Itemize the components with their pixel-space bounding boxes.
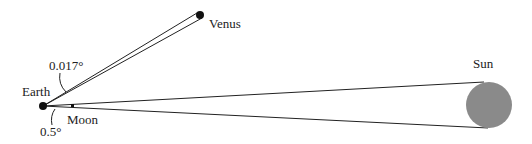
venus-angle-leader <box>60 73 66 92</box>
moon-angle-label: 0.5° <box>40 124 61 139</box>
earth-label: Earth <box>22 84 51 99</box>
sun-label: Sun <box>473 56 494 71</box>
venus-label: Venus <box>209 16 241 31</box>
moon-angle-leader <box>51 109 55 125</box>
sun-disc <box>466 82 512 128</box>
earth-dot <box>39 102 47 110</box>
venus-angle-label: 0.017° <box>49 58 83 73</box>
sun-sightlines <box>43 82 488 128</box>
moon-dot <box>71 104 74 107</box>
moon-label: Moon <box>67 112 99 127</box>
angular-size-diagram: Venus 0.017° Earth Moon 0.5° Sun <box>0 0 532 144</box>
venus-dot <box>196 11 204 19</box>
